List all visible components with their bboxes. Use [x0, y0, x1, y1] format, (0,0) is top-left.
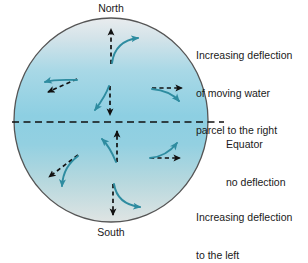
nh-annotation-line-2: of moving water: [196, 87, 292, 100]
southern-hemisphere-annotation: Increasing deflection to the left: [196, 186, 292, 263]
south-pole-label: South: [0, 226, 222, 239]
equator-label: Equator: [226, 138, 286, 151]
nh-annotation-line-1: Increasing deflection: [196, 49, 292, 62]
sh-annotation-line-2: to the left: [196, 249, 292, 262]
sh-annotation-line-1: Increasing deflection: [196, 211, 292, 224]
north-pole-label: North: [0, 2, 222, 15]
